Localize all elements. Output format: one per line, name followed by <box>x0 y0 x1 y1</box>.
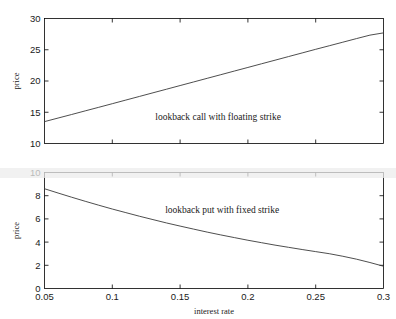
panel-top: 1015202530pricelookback call with floati… <box>11 13 384 149</box>
plot-frame <box>45 19 384 144</box>
y-tick-label: 2 <box>35 260 40 271</box>
y-tick-label: 4 <box>35 237 40 248</box>
data-curve <box>45 189 384 266</box>
x-tick-label: 0.3 <box>377 291 390 302</box>
figure-canvas: 1015202530pricelookback call with floati… <box>0 0 396 319</box>
curve-annotation: lookback call with floating strike <box>155 112 281 122</box>
y-tick-label: 30 <box>30 13 41 24</box>
y-tick-label: 25 <box>30 44 41 55</box>
x-axis-title: interest rate <box>194 306 234 316</box>
y-tick-label: 10 <box>30 138 41 149</box>
y-tick-label: 20 <box>30 75 41 86</box>
y-tick-label: 8 <box>35 190 40 201</box>
x-tick-label: 0.15 <box>171 291 190 302</box>
plot-frame <box>45 173 384 289</box>
x-tick-label: 0.2 <box>241 291 254 302</box>
y-axis-title: price <box>11 72 21 89</box>
x-tick-label: 0.1 <box>106 291 119 302</box>
y-tick-label: 15 <box>30 107 41 118</box>
two-panel-line-chart: 1015202530pricelookback call with floati… <box>0 0 396 319</box>
y-tick-label: 6 <box>35 213 40 224</box>
x-tick-label: 0.25 <box>306 291 325 302</box>
y-tick-label: 0 <box>35 283 40 294</box>
data-curve <box>45 33 384 122</box>
curve-annotation: lookback put with fixed strike <box>165 205 279 215</box>
y-axis-title: price <box>11 222 21 239</box>
y-tick-label: 10 <box>30 167 41 178</box>
panel-bottom: 0.050.10.150.20.250.30246810priceinteres… <box>11 167 391 316</box>
